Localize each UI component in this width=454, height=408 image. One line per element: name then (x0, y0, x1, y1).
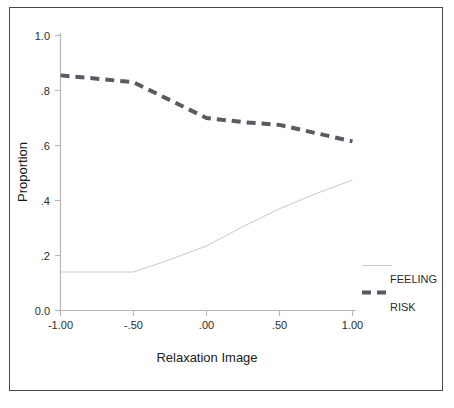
legend-label-risk: RISK (390, 301, 416, 313)
y-tick-label-0.0: 0.0 (35, 305, 50, 317)
y-tick-label-0.4: .4 (41, 195, 50, 207)
x-tick-label-0.00: .00 (199, 319, 214, 331)
y-tick-label-0.8: .8 (41, 85, 50, 97)
y-tick-label-0.6: .6 (41, 140, 50, 152)
series-line-feeling (61, 180, 353, 272)
y-tick-label-0.2: .2 (41, 250, 50, 262)
legend-label-feeling: FEELING (390, 273, 437, 285)
x-axis-title: Relaxation Image (156, 350, 257, 365)
series-feeling-group (61, 180, 353, 272)
y-tick-label-1.0: 1.0 (35, 30, 50, 42)
series-line-risk (61, 75, 353, 141)
series-risk-group (61, 75, 353, 141)
x-tick-label--0.50: -.50 (124, 319, 143, 331)
chart-canvas: 1.0 .8 .6 .4 .2 0.0 -1.00 -.50 .00 .50 1… (0, 0, 454, 408)
x-tick-label-1.00: 1.00 (342, 319, 363, 331)
x-tick-label-0.50: .50 (272, 319, 287, 331)
legend: FEELING RISK (362, 266, 437, 314)
y-axis-title: Proportion (15, 142, 30, 202)
x-tick-label--1.00: -1.00 (48, 319, 73, 331)
